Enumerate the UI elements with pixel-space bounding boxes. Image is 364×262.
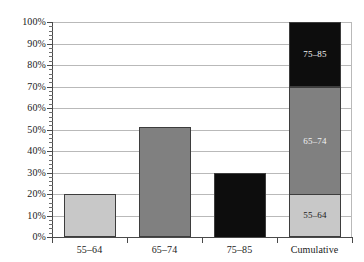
y-axis-minor-tick	[49, 168, 53, 169]
y-axis-minor-tick	[49, 48, 53, 49]
y-axis-tick-label: 30%	[27, 168, 46, 178]
y-axis-minor-tick	[49, 203, 53, 204]
plot-area: 55–6465–7475–85	[52, 22, 352, 237]
y-axis-major-tick	[47, 216, 53, 217]
y-axis-minor-tick	[49, 95, 53, 96]
y-axis-minor-tick	[49, 138, 53, 139]
y-axis-major-tick	[47, 151, 53, 152]
y-axis-minor-tick	[49, 164, 53, 165]
y-axis-minor-tick	[49, 112, 53, 113]
y-axis-minor-tick	[49, 117, 53, 118]
y-axis-major-tick	[47, 130, 53, 131]
y-axis-minor-tick	[49, 198, 53, 199]
y-axis-tick-label: 20%	[27, 189, 46, 199]
y-axis-tick-label: 80%	[27, 60, 46, 70]
bar-segment: 75–85	[289, 22, 341, 87]
bar-segment: 65–74	[289, 87, 341, 195]
x-axis-category-separator	[202, 238, 203, 243]
y-axis-minor-tick	[49, 35, 53, 36]
y-axis-major-tick	[47, 44, 53, 45]
y-axis-tick-label: 50%	[27, 125, 46, 135]
y-axis-minor-tick	[49, 125, 53, 126]
y-axis-minor-tick	[49, 121, 53, 122]
x-axis-category-separator	[277, 238, 278, 243]
y-axis-minor-tick	[49, 56, 53, 57]
y-axis-tick-label: 40%	[27, 146, 46, 156]
bar	[214, 173, 266, 238]
y-axis-major-tick	[47, 194, 53, 195]
y-axis-minor-tick	[49, 31, 53, 32]
y-axis-minor-tick	[49, 228, 53, 229]
y-axis-minor-tick	[49, 233, 53, 234]
x-axis-category-label: 65–74	[127, 244, 202, 255]
y-axis-tick-label: 90%	[27, 39, 46, 49]
y-axis-major-tick	[47, 87, 53, 88]
y-axis-major-tick	[47, 108, 53, 109]
y-axis-tick-label: 10%	[27, 211, 46, 221]
bar-chart: 55–6465–7475–85 100%90%80%70%60%50%40%30…	[0, 0, 364, 262]
y-axis-minor-tick	[49, 155, 53, 156]
bar	[139, 127, 191, 237]
y-axis-minor-tick	[49, 61, 53, 62]
y-axis-minor-tick	[49, 78, 53, 79]
y-axis-major-tick	[47, 173, 53, 174]
bar-segment-label: 65–74	[303, 137, 327, 146]
bar-segment: 55–64	[289, 194, 341, 237]
y-axis-minor-tick	[49, 211, 53, 212]
y-axis-minor-tick	[49, 69, 53, 70]
y-axis-minor-tick	[49, 220, 53, 221]
y-axis-minor-tick	[49, 82, 53, 83]
y-axis-minor-tick	[49, 207, 53, 208]
y-axis-minor-tick	[49, 160, 53, 161]
y-axis-minor-tick	[49, 177, 53, 178]
x-axis-category-label: Cumulative	[277, 244, 352, 255]
y-axis-minor-tick	[49, 39, 53, 40]
x-axis-category-label: 75–85	[202, 244, 277, 255]
y-axis-minor-tick	[49, 185, 53, 186]
y-axis-minor-tick	[49, 104, 53, 105]
y-axis-tick-label: 0%	[32, 232, 46, 242]
y-axis-minor-tick	[49, 91, 53, 92]
plot-right-edge	[351, 22, 352, 237]
y-axis-tick-label: 70%	[27, 82, 46, 92]
y-axis-minor-tick	[49, 26, 53, 27]
x-axis-end-tick	[52, 238, 53, 243]
y-axis-minor-tick	[49, 190, 53, 191]
y-axis-minor-tick	[49, 52, 53, 53]
y-axis-minor-tick	[49, 147, 53, 148]
x-axis-category-separator	[127, 238, 128, 243]
x-axis-category-label: 55–64	[52, 244, 127, 255]
y-axis-minor-tick	[49, 74, 53, 75]
bar-segment-label: 55–64	[303, 211, 327, 220]
x-axis-end-tick	[352, 238, 353, 243]
y-axis-tick-label: 60%	[27, 103, 46, 113]
y-axis-major-tick	[47, 65, 53, 66]
y-axis-minor-tick	[49, 99, 53, 100]
y-axis-minor-tick	[49, 181, 53, 182]
bar-segment-label: 75–85	[303, 50, 327, 59]
bar	[64, 194, 116, 237]
y-axis-minor-tick	[49, 134, 53, 135]
y-axis-major-tick	[47, 22, 53, 23]
y-axis-tick-label: 100%	[22, 17, 46, 27]
y-axis-minor-tick	[49, 224, 53, 225]
y-axis-minor-tick	[49, 142, 53, 143]
